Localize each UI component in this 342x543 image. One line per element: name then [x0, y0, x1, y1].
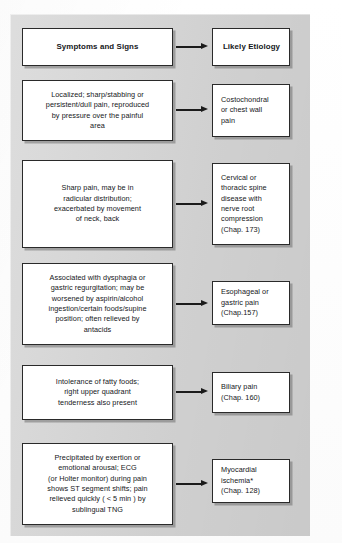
symptom-text-4: Intolerance of fatty foods; right upper …: [23, 377, 172, 408]
etiology-box-1: Costochondral or chest wall pain: [212, 84, 290, 137]
header-box-symptoms: Symptoms and Signs: [22, 28, 173, 66]
arrow-shaft: [176, 109, 203, 110]
symptom-box-5: Precipitated by exertion or emotional ar…: [22, 443, 173, 525]
arrow-row-1: [176, 105, 209, 115]
flowchart: Symptoms and Signs Likely Etiology Local…: [0, 0, 342, 543]
etiology-box-2: Cervical or thoracic spine disease with …: [212, 163, 290, 245]
arrow-shaft: [176, 203, 203, 204]
symptom-box-4: Intolerance of fatty foods; right upper …: [22, 365, 173, 420]
etiology-box-4: Biliary pain (Chap. 160): [212, 372, 290, 413]
arrow-row-2: [176, 199, 209, 209]
arrow-head-icon: [201, 43, 208, 49]
symptom-box-3: Associated with dysphagia or gastric reg…: [22, 263, 173, 345]
etiology-text-4: Biliary pain (Chap. 160): [213, 382, 289, 403]
symptom-text-5: Precipitated by exertion or emotional ar…: [23, 453, 172, 515]
arrow-header: [176, 42, 209, 52]
etiology-text-1: Costochondral or chest wall pain: [213, 95, 289, 126]
arrow-shaft: [176, 46, 203, 47]
etiology-box-5: Myocardial ischemia* (Chap. 128): [212, 459, 290, 503]
arrow-head-icon: [201, 388, 208, 394]
arrow-shaft: [176, 483, 203, 484]
arrow-head-icon: [201, 106, 208, 112]
etiology-text-2: Cervical or thoracic spine disease with …: [213, 173, 289, 235]
etiology-text-3: Esophageal or gastric pain (Chap.157): [213, 287, 289, 318]
arrow-head-icon: [201, 200, 208, 206]
header-box-etiology: Likely Etiology: [212, 28, 290, 66]
header-label-symptoms: Symptoms and Signs: [23, 42, 172, 52]
etiology-text-5: Myocardial ischemia* (Chap. 128): [213, 465, 289, 496]
symptom-box-1: Localized; sharp/stabbing or persistent/…: [22, 80, 173, 141]
arrow-shaft: [176, 391, 203, 392]
symptom-text-2: Sharp pain, may be in radicular distribu…: [23, 183, 172, 225]
etiology-box-3: Esophageal or gastric pain (Chap.157): [212, 281, 290, 325]
arrow-row-4: [176, 387, 209, 397]
header-label-etiology: Likely Etiology: [213, 42, 289, 52]
symptom-text-1: Localized; sharp/stabbing or persistent/…: [23, 90, 172, 132]
arrow-row-3: [176, 299, 209, 309]
arrow-head-icon: [201, 300, 208, 306]
arrow-row-5: [176, 479, 209, 489]
arrow-head-icon: [201, 480, 208, 486]
symptom-text-3: Associated with dysphagia or gastric reg…: [23, 273, 172, 335]
symptom-box-2: Sharp pain, may be in radicular distribu…: [22, 160, 173, 248]
arrow-shaft: [176, 303, 203, 304]
